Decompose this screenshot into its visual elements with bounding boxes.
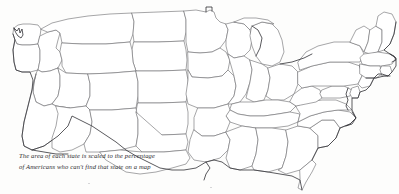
cartogram-figure: The area of each state is scaled to the … bbox=[0, 0, 399, 194]
scan-speck bbox=[210, 187, 212, 188]
state-michigan bbox=[250, 22, 284, 66]
state-south-dakota bbox=[132, 41, 187, 71]
state-wyoming bbox=[60, 42, 136, 74]
state-iowa bbox=[188, 48, 230, 78]
state-arkansas bbox=[194, 104, 230, 136]
state-ohio bbox=[266, 64, 298, 100]
state-connecticut bbox=[360, 64, 382, 78]
state-nebraska bbox=[136, 70, 188, 103]
caption-line-2: of Americans who can't find that state o… bbox=[19, 162, 209, 173]
map-caption: The area of each state is scaled to the … bbox=[19, 151, 209, 172]
state-maryland bbox=[320, 86, 352, 98]
caption-line-1: The area of each state is scaled to the … bbox=[19, 151, 209, 162]
state-north-dakota bbox=[132, 11, 186, 42]
state-oregon bbox=[13, 40, 40, 72]
state-new-mexico bbox=[84, 108, 138, 152]
state-rhode-island bbox=[380, 66, 392, 76]
state-colorado bbox=[86, 71, 138, 110]
scan-speck bbox=[88, 183, 90, 184]
state-minnesota bbox=[184, 10, 228, 53]
state-idaho bbox=[38, 30, 62, 72]
